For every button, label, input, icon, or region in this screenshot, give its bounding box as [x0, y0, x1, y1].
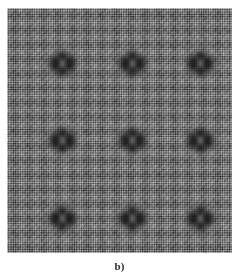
figure-panel-b: b) [0, 0, 239, 279]
figure-caption-label: b) [0, 260, 239, 273]
intensity-map-canvas [7, 8, 232, 253]
intensity-map-panel [7, 8, 232, 253]
